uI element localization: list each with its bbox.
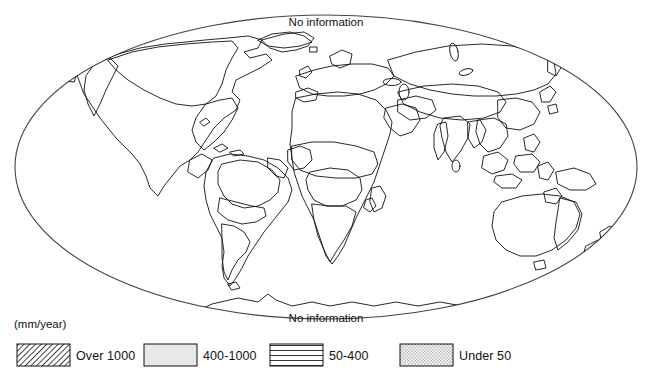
legend-label-under-50: Under 50: [459, 349, 511, 363]
no-information-label-antarctic: No information: [289, 312, 364, 324]
legend-item-50-400[interactable]: 50-400: [270, 344, 369, 366]
legend-item-over-1000[interactable]: Over 1000: [17, 344, 135, 366]
legend-label-50-400: 50-400: [329, 349, 369, 363]
legend-item-under-50[interactable]: Under 50: [400, 344, 511, 366]
legend-swatch-400-1000: [144, 344, 197, 366]
legend-label-400-1000: 400-1000: [203, 349, 257, 363]
legend-units-label: (mm/year): [14, 318, 67, 330]
legend-label-over-1000: Over 1000: [76, 349, 135, 363]
legend-swatch-under-50: [400, 344, 453, 366]
no-information-label-arctic: No information: [289, 16, 364, 28]
legend-item-400-1000[interactable]: 400-1000: [144, 344, 257, 366]
world-precipitation-map: No information No information (mm/year) …: [0, 0, 653, 378]
legend-swatch-50-400: [270, 344, 323, 366]
legend-swatch-over-1000: [17, 344, 70, 366]
legend: (mm/year) Over 1000 400-1000 50-400 Unde…: [14, 318, 511, 366]
